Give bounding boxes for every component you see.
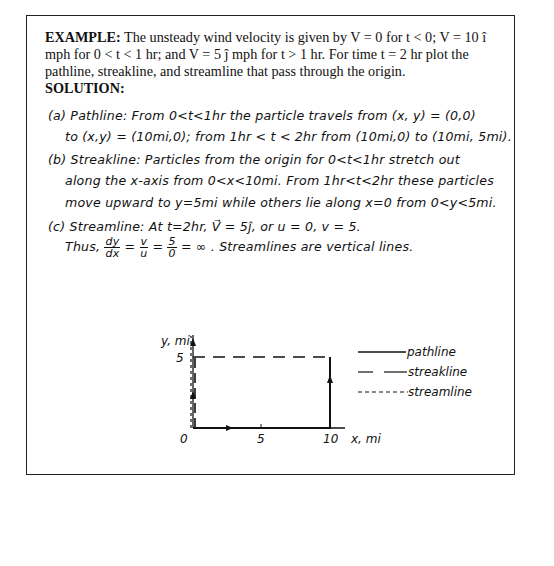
x-tick-10: 10 [323,432,339,446]
svg-text:pathline: pathline [406,345,456,359]
svg-text:streakline: streakline [408,365,467,379]
flow-lines-plot: y, mi 5 0 5 10 x, mi pathline streakline… [0,0,554,566]
pathline-arrow [327,375,333,383]
legend: pathline streakline streamline [358,345,472,399]
x-tick-0: 0 [180,432,188,446]
x-tick-5: 5 [257,432,265,446]
pathline [193,357,330,428]
y-axis-label: y, mi [160,334,190,348]
x-axis-label: x, mi [350,432,381,446]
svg-text:streamline: streamline [408,385,472,399]
y-tick-5: 5 [176,351,184,365]
